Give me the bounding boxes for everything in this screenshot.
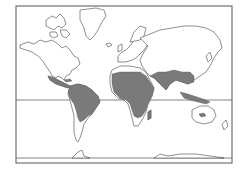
shaded-africa — [112, 72, 154, 118]
shaded-regions — [48, 70, 210, 122]
greenland — [80, 8, 106, 40]
british-isles — [118, 44, 122, 52]
arctic-islands-2 — [50, 32, 58, 38]
arctic-islands-3 — [60, 30, 70, 38]
shaded-madagascar — [148, 110, 151, 120]
shaded-southeast-asia — [180, 92, 210, 104]
shaded-caribbean — [64, 79, 72, 82]
shaded-south-asia — [150, 70, 194, 90]
iceland — [106, 43, 112, 47]
antarctica — [72, 150, 90, 158]
antarctica-east — [154, 154, 224, 158]
world-map-svg — [0, 0, 250, 171]
north-america — [20, 40, 80, 80]
arctic-islands — [46, 14, 66, 30]
new-zealand — [222, 120, 228, 130]
world-map — [0, 0, 250, 171]
